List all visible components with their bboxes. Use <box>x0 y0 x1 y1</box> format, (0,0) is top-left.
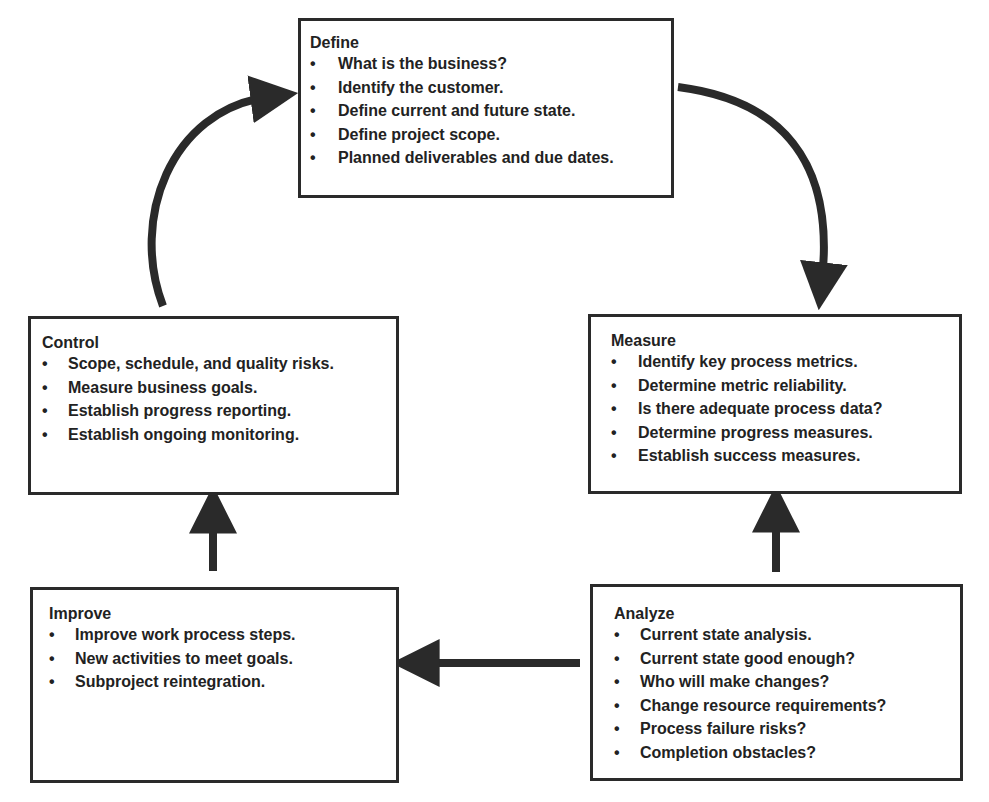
measure-item: •Is there adequate process data? <box>611 397 959 421</box>
measure-item: •Establish success measures. <box>611 444 959 468</box>
control-title: Control <box>42 333 396 352</box>
bullet-icon: • <box>310 146 316 170</box>
analyze-box: Analyze •Current state analysis. •Curren… <box>590 584 963 781</box>
improve-item: •New activities to meet goals. <box>49 647 396 671</box>
bullet-icon: • <box>310 123 316 147</box>
analyze-list: •Current state analysis. •Current state … <box>614 623 960 764</box>
define-box: Define •What is the business? •Identify … <box>298 18 674 198</box>
bullet-icon: • <box>611 397 617 421</box>
measure-item: •Identify key process metrics. <box>611 350 959 374</box>
bullet-icon: • <box>310 76 316 100</box>
bullet-icon: • <box>611 374 617 398</box>
analyze-item: •Process failure risks? <box>614 717 960 741</box>
measure-title: Measure <box>611 331 959 350</box>
measure-item: •Determine metric reliability. <box>611 374 959 398</box>
control-box: Control •Scope, schedule, and quality ri… <box>28 316 399 495</box>
define-item: •Define current and future state. <box>310 99 671 123</box>
analyze-item: •Who will make changes? <box>614 670 960 694</box>
analyze-title: Analyze <box>614 604 960 623</box>
control-item: •Scope, schedule, and quality risks. <box>42 352 396 376</box>
bullet-icon: • <box>42 423 48 447</box>
bullet-icon: • <box>42 399 48 423</box>
bullet-icon: • <box>310 52 316 76</box>
analyze-item: •Completion obstacles? <box>614 741 960 765</box>
improve-box: Improve •Improve work process steps. •Ne… <box>30 587 399 783</box>
define-item: •Define project scope. <box>310 123 671 147</box>
control-item: •Establish progress reporting. <box>42 399 396 423</box>
bullet-icon: • <box>611 350 617 374</box>
analyze-item: •Current state analysis. <box>614 623 960 647</box>
bullet-icon: • <box>611 444 617 468</box>
improve-item: •Subproject reintegration. <box>49 670 396 694</box>
bullet-icon: • <box>614 694 620 718</box>
improve-list: •Improve work process steps. •New activi… <box>49 623 396 694</box>
control-item: •Establish ongoing monitoring. <box>42 423 396 447</box>
improve-title: Improve <box>49 604 396 623</box>
bullet-icon: • <box>49 647 55 671</box>
bullet-icon: • <box>49 623 55 647</box>
bullet-icon: • <box>49 670 55 694</box>
define-item: •What is the business? <box>310 52 671 76</box>
control-list: •Scope, schedule, and quality risks. •Me… <box>42 352 396 446</box>
bullet-icon: • <box>614 647 620 671</box>
bullet-icon: • <box>42 352 48 376</box>
measure-list: •Identify key process metrics. •Determin… <box>611 350 959 468</box>
analyze-item: •Current state good enough? <box>614 647 960 671</box>
define-title: Define <box>310 33 671 52</box>
measure-box: Measure •Identify key process metrics. •… <box>588 314 962 494</box>
arrow-define-to-measure <box>678 87 824 280</box>
control-item: •Measure business goals. <box>42 376 396 400</box>
arrow-control-to-define <box>152 97 268 306</box>
bullet-icon: • <box>614 623 620 647</box>
bullet-icon: • <box>611 421 617 445</box>
bullet-icon: • <box>42 376 48 400</box>
define-list: •What is the business? •Identify the cus… <box>310 52 671 170</box>
define-item: •Identify the customer. <box>310 76 671 100</box>
bullet-icon: • <box>614 741 620 765</box>
define-item: •Planned deliverables and due dates. <box>310 146 671 170</box>
analyze-item: •Change resource requirements? <box>614 694 960 718</box>
bullet-icon: • <box>614 717 620 741</box>
measure-item: •Determine progress measures. <box>611 421 959 445</box>
bullet-icon: • <box>310 99 316 123</box>
improve-item: •Improve work process steps. <box>49 623 396 647</box>
bullet-icon: • <box>614 670 620 694</box>
